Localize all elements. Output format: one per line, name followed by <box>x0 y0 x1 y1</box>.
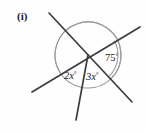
angle-75-value: 75 <box>105 52 116 63</box>
angle-2x-value: 2x <box>64 70 74 81</box>
angle-label-75: 75° <box>105 52 119 64</box>
angle-diagram: 75° 2x° 3x° <box>0 0 145 133</box>
intersecting-lines <box>32 13 140 120</box>
angle-75-degree-symbol: ° <box>116 52 119 59</box>
angle-label-3x: 3x° <box>85 71 99 83</box>
geometry-figure: (i) 75° 2x° 3x° <box>0 0 145 133</box>
angle-2x-degree-symbol: ° <box>74 70 77 77</box>
angle-3x-value: 3x <box>85 71 96 82</box>
angle-3x-degree-symbol: ° <box>96 71 99 78</box>
angle-label-2x: 2x° <box>64 70 77 82</box>
line-upper-right-to-lower-left <box>32 27 140 92</box>
